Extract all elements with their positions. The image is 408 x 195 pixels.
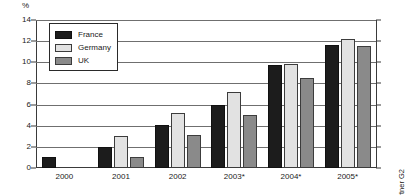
- x-axis-tick-label: 2003*: [224, 172, 245, 181]
- y-axis-right-tick-mark: [376, 41, 381, 42]
- legend-item-germany: Germany: [55, 41, 111, 54]
- y-axis-tick-label: 10: [22, 58, 31, 66]
- y-axis-right-tick-mark: [376, 20, 381, 21]
- bar-uk-2004: [300, 78, 314, 168]
- legend-swatch-germany: [55, 44, 72, 52]
- bar-group: [319, 20, 376, 168]
- bar-uk-2002: [187, 135, 201, 168]
- y-axis-right-tick-mark: [376, 168, 381, 169]
- x-axis-tick-label: 2005*: [337, 172, 358, 181]
- y-axis-right-tick-mark: [376, 125, 381, 126]
- legend-label: Germany: [78, 43, 111, 52]
- y-axis-right-tick-mark: [376, 146, 381, 147]
- legend-item-uk: UK: [55, 54, 111, 67]
- legend-swatch-uk: [55, 57, 72, 65]
- y-axis-right-tick-mark: [376, 62, 381, 63]
- bar-uk-2003: [243, 115, 257, 168]
- x-axis-tick-label: 2000: [55, 172, 73, 181]
- y-axis-tick-label: 14: [22, 16, 31, 24]
- y-axis-unit-label: %: [22, 1, 29, 11]
- legend-item-france: France: [55, 28, 111, 41]
- bar-germany-2001: [114, 136, 128, 168]
- x-axis-tick-label: 2002: [169, 172, 187, 181]
- bar-chart: % 02468101214 2000200120022003*2004*2005…: [0, 0, 408, 195]
- legend-label: UK: [78, 56, 89, 65]
- legend-label: France: [78, 30, 103, 39]
- bar-uk-2005: [357, 46, 371, 168]
- bar-france-2004: [268, 65, 282, 168]
- bar-germany-2005: [341, 39, 355, 168]
- y-axis-right-tick-mark: [376, 104, 381, 105]
- chart-legend: FranceGermanyUK: [49, 23, 118, 71]
- bar-france-2000: [42, 157, 56, 168]
- bar-germany-2004: [284, 64, 298, 168]
- bar-group: [149, 20, 206, 168]
- bar-group: [263, 20, 320, 168]
- bar-france-2001: [98, 147, 112, 168]
- bar-germany-2003: [227, 92, 241, 168]
- bar-group: [206, 20, 263, 168]
- legend-swatch-france: [55, 31, 72, 39]
- x-axis-tick-label: 2004*: [281, 172, 302, 181]
- bar-uk-2001: [130, 157, 144, 168]
- bar-germany-2002: [171, 113, 185, 168]
- bar-france-2003: [211, 105, 225, 168]
- x-axis-tick-label: 2001: [112, 172, 130, 181]
- bar-france-2002: [155, 125, 169, 168]
- y-axis-right-tick-mark: [376, 83, 381, 84]
- bar-france-2005: [325, 45, 339, 168]
- y-axis-tick-label: 12: [22, 37, 31, 45]
- source-note: *estimate. Source: Gartner G2: [397, 169, 406, 195]
